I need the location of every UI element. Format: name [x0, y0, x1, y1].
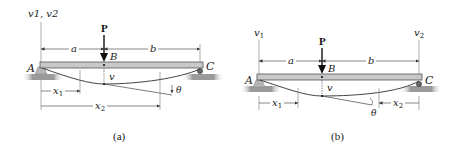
load-label-p: P	[319, 35, 326, 47]
point-label-b: B	[109, 51, 117, 62]
deflection-label-v: v	[327, 82, 333, 93]
axis-label-v1-v2: v1, v2	[28, 8, 58, 19]
beam	[257, 74, 422, 80]
load-arrow-icon	[100, 53, 108, 62]
point-label-c: C	[425, 74, 434, 87]
slope-tangent	[104, 84, 172, 95]
axis-label-v1: v1	[254, 27, 264, 40]
axis-label-v2: v2	[414, 27, 424, 40]
theta-arc	[370, 98, 373, 105]
load-label-p: P	[101, 22, 108, 34]
beam	[40, 62, 203, 68]
caption-a: (a)	[113, 130, 126, 143]
load-arrow-icon	[318, 65, 326, 74]
figure-a: v1, v2 a b P B v A C	[22, 8, 224, 143]
slope-label-theta: θ	[371, 108, 377, 118]
point-label-c: C	[206, 60, 215, 73]
elastic-curve	[42, 68, 200, 84]
point-label-a: A	[244, 74, 253, 87]
caption-b: (b)	[331, 130, 344, 143]
point-label-a: A	[26, 62, 35, 75]
deflection-label-v: v	[109, 71, 115, 82]
span-label-a: a	[288, 55, 294, 66]
slope-label-theta: θ	[176, 85, 182, 95]
elastic-curve	[260, 80, 419, 96]
figure-b: v1 v2 v1 v2 a b P B v A C	[240, 27, 442, 143]
span-label-a: a	[71, 43, 77, 54]
span-label-b: b	[368, 55, 374, 66]
point-label-b: B	[327, 63, 335, 74]
ground-right	[182, 74, 224, 80]
slope-tangent	[322, 96, 372, 105]
span-label-b: b	[150, 43, 156, 54]
